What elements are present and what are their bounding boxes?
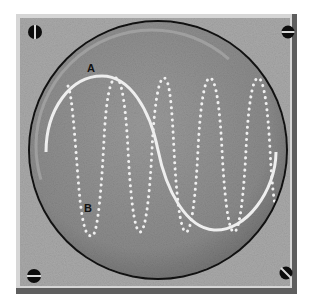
screw-bottom-left-icon: [27, 269, 41, 283]
screw-bottom-right-icon: [280, 267, 293, 280]
wave-b-label: B: [84, 202, 92, 214]
screw-top-right-icon: [282, 26, 295, 39]
screw-top-left-icon: [28, 25, 42, 39]
oscilloscope-diagram: A B: [0, 0, 320, 308]
wave-a-label: A: [87, 62, 95, 74]
